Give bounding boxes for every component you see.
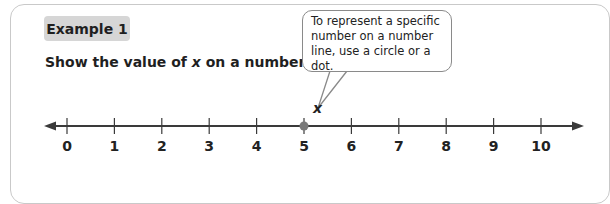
callout-text: To represent a specific number on a numb… bbox=[311, 14, 440, 73]
tick-label: 5 bbox=[289, 138, 319, 154]
tick-label: 7 bbox=[384, 138, 414, 154]
variable-label: x bbox=[313, 100, 322, 116]
callout-bubble: To represent a specific number on a numb… bbox=[302, 10, 452, 72]
tick-label: 4 bbox=[242, 138, 272, 154]
arrow-right-icon bbox=[572, 122, 584, 131]
tick-label: 3 bbox=[194, 138, 224, 154]
point-dot bbox=[300, 122, 309, 131]
tick-label: 0 bbox=[52, 138, 82, 154]
tick-label: 2 bbox=[147, 138, 177, 154]
arrow-left-icon bbox=[44, 122, 56, 131]
tick-label: 1 bbox=[99, 138, 129, 154]
tick-label: 6 bbox=[336, 138, 366, 154]
tick-label: 9 bbox=[479, 138, 509, 154]
tick-label: 10 bbox=[526, 138, 556, 154]
tick-label: 8 bbox=[431, 138, 461, 154]
